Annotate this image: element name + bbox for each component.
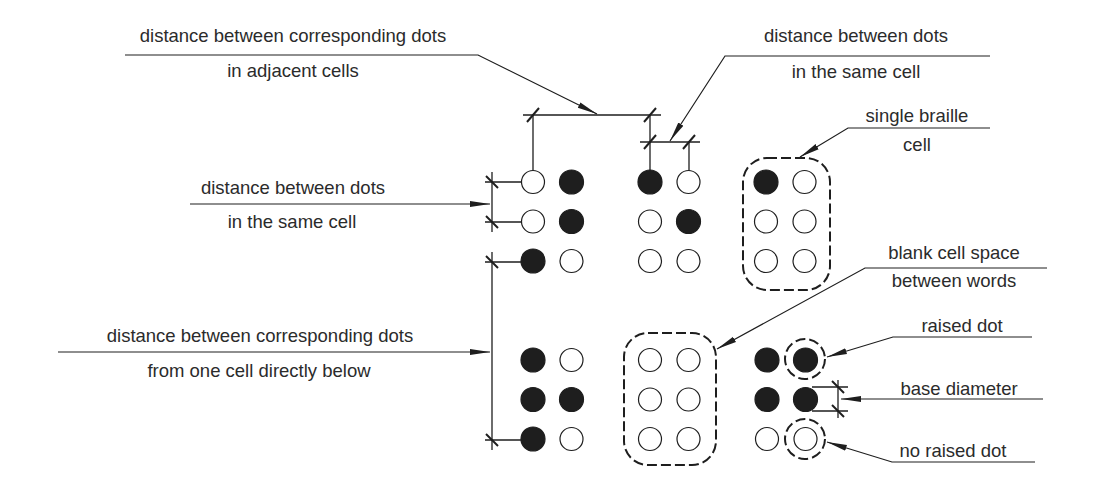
empty-dot <box>793 210 816 233</box>
raised-dot <box>560 210 584 234</box>
label-single-cell-line1: single braille <box>866 105 969 126</box>
bottom-cell-1 <box>521 348 584 451</box>
label-below-cell-line2: from one cell directly below <box>147 360 371 381</box>
raised-dot <box>755 388 779 412</box>
empty-dot <box>677 171 700 194</box>
label-single-cell-line2: cell <box>903 134 931 155</box>
cell-outlines <box>624 158 830 465</box>
raised-dot <box>521 427 545 451</box>
empty-dot <box>755 250 778 273</box>
empty-dot <box>793 171 816 194</box>
raised-dot <box>755 348 779 372</box>
raised-dot <box>754 170 778 194</box>
raised-dot <box>794 348 818 372</box>
label-base-diameter: base diameter <box>900 378 1017 399</box>
raised-dot <box>677 210 701 234</box>
label-no-raised-dot: no raised dot <box>900 440 1007 461</box>
empty-dot <box>794 428 817 451</box>
blank-cell <box>639 349 701 451</box>
raised-dot <box>638 170 662 194</box>
raised-dot <box>521 348 545 372</box>
braille-dots <box>521 170 818 451</box>
empty-dot <box>522 210 545 233</box>
empty-dot <box>639 428 662 451</box>
single-braille-cell <box>754 170 816 273</box>
raised-dot <box>794 388 818 412</box>
empty-dot <box>639 388 662 411</box>
empty-dot <box>639 250 662 273</box>
empty-dot <box>755 210 778 233</box>
raised-dot <box>521 388 545 412</box>
raised-dot <box>560 388 584 412</box>
empty-dot <box>560 349 583 372</box>
label-below-cell-line1: distance between corresponding dots <box>107 325 413 346</box>
empty-dot <box>793 250 816 273</box>
label-blank-cell-line1: blank cell space <box>888 242 1020 263</box>
raised-dot <box>521 249 545 273</box>
empty-dot <box>756 428 779 451</box>
empty-dot <box>677 388 700 411</box>
label-same-cell-top-line1: distance between dots <box>764 25 948 46</box>
empty-dot <box>677 250 700 273</box>
label-same-cell-top-line2: in the same cell <box>792 61 921 82</box>
empty-dot <box>639 349 662 372</box>
empty-dot <box>677 428 700 451</box>
empty-dot <box>560 428 583 451</box>
empty-dot <box>639 210 662 233</box>
empty-dot <box>677 349 700 372</box>
top-cell-1 <box>521 170 584 273</box>
braille-diagram: distance between corresponding dots in a… <box>0 0 1093 492</box>
label-adjacent-line2: in adjacent cells <box>227 60 359 81</box>
label-same-cell-left-line1: distance between dots <box>201 177 385 198</box>
blank-cell-outline <box>624 333 716 465</box>
top-cell-2 <box>638 170 701 273</box>
empty-dot <box>522 171 545 194</box>
raised-dot <box>560 170 584 194</box>
label-raised-dot: raised dot <box>921 315 1002 336</box>
label-adjacent-line1: distance between corresponding dots <box>140 25 446 46</box>
label-same-cell-left-line2: in the same cell <box>228 211 357 232</box>
label-blank-cell-line2: between words <box>892 270 1016 291</box>
empty-dot <box>560 250 583 273</box>
